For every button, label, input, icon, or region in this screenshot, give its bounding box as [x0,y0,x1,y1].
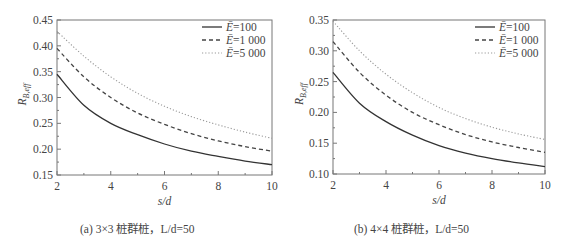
legend: Ē=100Ē=1 000Ē=5 000 [202,21,266,59]
x-tick-label: 10 [266,180,278,192]
y-tick-label: 0.35 [33,66,53,78]
legend-label: Ē=5 000 [225,47,266,59]
caption-b: (b) 4×4 桩群桩，L/d=50 [354,220,469,236]
y-axis-label: RB,eff [293,81,308,106]
x-tick-label: 2 [54,180,60,192]
x-tick-label: 4 [108,180,114,192]
legend-label: Ē=1 000 [225,34,266,46]
legend-label: Ē=100 [498,21,530,33]
x-tick-label: 10 [539,179,551,191]
x-axis-label: s/d [158,195,172,207]
series-line-dashed [57,48,272,151]
y-axis-label: RB,eff [16,82,31,107]
x-tick-label: 6 [436,179,442,191]
y-tick-label: 0.25 [309,76,329,88]
figure-canvas: 0.150.200.250.300.350.400.45246810s/dRB,… [0,0,562,239]
y-tick-label: 0.30 [33,92,53,104]
y-tick-label: 0.15 [33,169,53,181]
y-tick-label: 0.20 [33,143,53,155]
x-tick-label: 6 [162,180,168,192]
legend-label: Ē=5 000 [498,47,539,59]
y-tick-label: 0.15 [309,137,329,149]
series-line-solid [57,74,272,164]
legend-label: Ē=100 [225,21,257,33]
y-tick-label: 0.40 [33,40,53,52]
y-tick-label: 0.35 [309,14,329,26]
chart-panel-b: 0.100.150.200.250.300.35246810s/dRB,effĒ… [293,14,551,206]
y-tick-label: 0.30 [309,45,329,57]
legend-label: Ē=1 000 [498,34,539,46]
x-tick-label: 2 [330,179,336,191]
caption-a: (a) 3×3 桩群桩，L/d=50 [80,220,194,236]
x-tick-label: 8 [215,180,221,192]
y-tick-label: 0.20 [309,106,329,118]
legend: Ē=100Ē=1 000Ē=5 000 [475,21,539,59]
chart-panel-a: 0.150.200.250.300.350.400.45246810s/dRB,… [16,14,278,207]
y-tick-label: 0.45 [33,14,53,26]
x-tick-label: 4 [383,179,389,191]
x-axis-label: s/d [432,194,446,206]
series-line-solid [333,72,545,166]
y-tick-label: 0.25 [33,117,53,129]
y-tick-label: 0.10 [309,168,329,180]
x-tick-label: 8 [489,179,495,191]
